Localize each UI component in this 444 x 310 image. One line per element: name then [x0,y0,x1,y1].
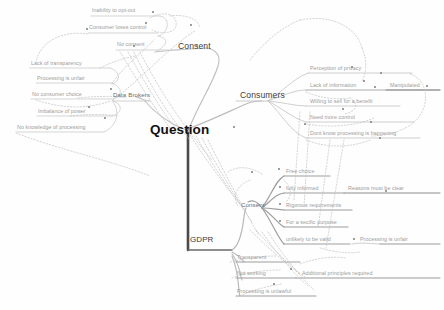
link-arrow-dot [370,121,372,123]
link-arrow-dot [190,24,192,26]
node-for-a-specific-purpose[interactable]: For a secific purpose [286,220,337,225]
root-node-question[interactable]: Question [150,123,209,137]
branch-consent-top [188,48,219,132]
node-no-knowledge-of-processing[interactable]: No knowledge of processing [17,125,86,130]
link-arrow-dot [273,283,275,285]
link-arrow-dot [233,126,235,128]
node-manipulated[interactable]: Manipulated [390,83,420,88]
link-arrow-dot [304,123,306,125]
cross-link-group [16,14,426,296]
link-arrow-dot [110,88,112,90]
node-processing-is-unlawful[interactable]: Processing is unlawful [237,289,291,294]
link-arrow-dot [342,108,344,110]
link-arrow-dot [196,45,198,47]
node-consumer-loses-control[interactable]: Consumer loses control [89,25,146,30]
node-data-brokers[interactable]: Data Brokers [113,92,150,98]
node-reasons-must-be-clear[interactable]: Reasons must be clear [348,186,404,191]
link-arrow-dot [290,268,292,270]
node-consent-top[interactable]: Consent [178,42,211,51]
node-lack-of-transparency[interactable]: Lack of transparency [31,61,82,66]
mindmap-connectors [0,0,444,310]
node-rigorous-requirements[interactable]: Rigorous requirements [286,203,341,208]
node-lack-of-information[interactable]: Lack of information [310,83,356,88]
link-arrow-dot [426,85,428,87]
node-no-consumer-choice[interactable]: No consumer choice [32,92,82,97]
link-arrow-dot [379,137,381,139]
node-additional-principles-required[interactable]: Additional principles required [302,271,372,276]
mindmap-canvas: Question GDPR Consent Inability to opt-o… [0,0,444,310]
link-arrow-dot [251,171,253,173]
node-consent-gdpr[interactable]: Consent [241,202,265,208]
node-not-working[interactable]: Not working [237,271,266,276]
node-no-consent[interactable]: No consent [117,42,145,47]
link-arrow-dot [279,220,281,222]
link-arrow-dot [86,28,88,30]
link-arrow-dot [152,11,154,13]
node-willing-to-sell[interactable]: Willing to sell for a benefit [310,99,373,104]
node-transparent[interactable]: Transparent [237,255,266,260]
node-free-choice[interactable]: Free choice [286,169,315,174]
node-imbalance-of-power[interactable]: Imbalance of power [38,109,86,114]
link-arrow-dot [279,203,281,205]
node-processing-is-unfair-left[interactable]: Processing is unfair [37,76,85,81]
link-arrow-dot [145,22,147,24]
trunk-label-gdpr[interactable]: GDPR [190,236,213,244]
link-arrow-dot [380,72,382,74]
link-arrow-dot [374,86,376,88]
node-fully-informed[interactable]: fully informed [286,186,319,191]
link-arrow-dot [363,80,365,82]
node-need-more-control[interactable]: Need more control [310,115,355,120]
branch-gdpr-consent [232,208,246,250]
link-arrow-dot [88,106,90,108]
node-consumers[interactable]: Consumers [240,91,285,100]
node-perception-of-privacy[interactable]: Perception of privacy [310,66,361,71]
node-dont-know-processing[interactable]: Dont know processing is happening [310,131,396,136]
link-arrow-dot [133,45,135,47]
link-arrow-dot [278,168,280,170]
node-processing-is-unfair-right[interactable]: Processing is unfair [360,237,408,242]
link-arrow-dot [104,117,106,119]
link-arrow-dot [353,238,355,240]
link-arrow-dot [279,186,281,188]
link-arrow-dot [351,66,353,68]
node-inability-to-opt-out[interactable]: Inability to opt-out [92,8,135,13]
node-unlikely-to-be-valid[interactable]: unlikely to be valid [286,237,331,242]
link-arrow-dot [385,190,387,192]
